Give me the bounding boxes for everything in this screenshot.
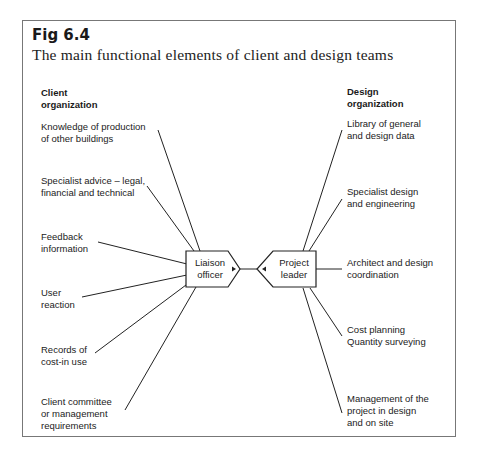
client-item-records: Records of cost-in use	[41, 344, 87, 368]
connector-client-specialist	[147, 186, 194, 251]
client-item-knowledge: Knowledge of production of other buildin…	[41, 121, 146, 145]
design-item-architect: Architect and design coordination	[347, 257, 433, 281]
client-item-committee: Client committee or management requireme…	[41, 396, 112, 432]
connector-client-records	[95, 285, 186, 353]
project-leader-node: Project leader	[274, 257, 314, 281]
client-item-specialist-advice: Specialist advice – legal, financial and…	[41, 175, 145, 199]
connector-client-user	[82, 275, 187, 297]
connector-diagram	[0, 0, 479, 454]
connector-design-specialist	[309, 199, 342, 251]
design-item-library: Library of general and design data	[347, 118, 421, 142]
design-item-management: Management of the project in design and …	[347, 393, 429, 429]
client-item-feedback: Feedback information	[41, 231, 88, 255]
client-item-user-reaction: User reaction	[41, 287, 75, 311]
design-item-cost-planning: Cost planning Quantity surveying	[347, 324, 426, 348]
design-item-specialist-design: Specialist design and engineering	[347, 186, 418, 210]
connector-design-cost	[310, 288, 342, 336]
connector-client-feedback	[98, 242, 187, 264]
connector-design-library	[303, 130, 342, 251]
connector-client-committee	[125, 287, 196, 410]
connector-client-knowledge	[158, 130, 200, 251]
liaison-officer-node: Liaison officer	[190, 257, 230, 281]
